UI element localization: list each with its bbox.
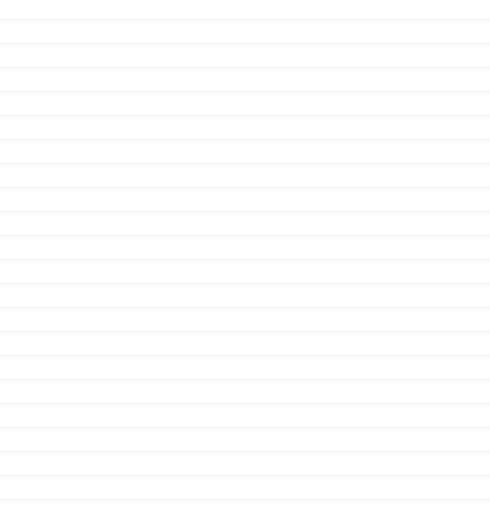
hexagon-cell-diagram: [12] [...] [...] [16] [24] [20] [...] [.… [0, 0, 490, 511]
